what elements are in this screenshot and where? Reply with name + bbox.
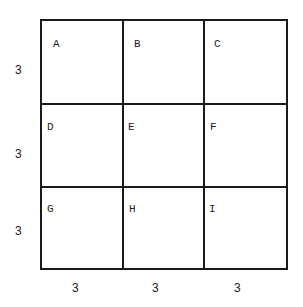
row-dimension-1: 3 <box>15 64 22 76</box>
cell-label-f: F <box>210 122 217 133</box>
row-dimension-2: 3 <box>15 148 22 160</box>
cell-label-h: H <box>129 204 136 215</box>
column-dimension-3: 3 <box>234 282 241 294</box>
grid-divider-horizontal-1 <box>42 103 286 105</box>
grid-divider-vertical-1 <box>122 21 124 268</box>
cell-label-g: G <box>47 204 54 215</box>
cell-label-e: E <box>128 122 135 133</box>
cell-label-a: A <box>53 39 60 50</box>
cell-label-i: I <box>209 204 216 215</box>
cell-label-d: D <box>47 122 54 133</box>
cell-label-b: B <box>134 39 141 50</box>
grid-divider-vertical-2 <box>203 21 205 268</box>
grid-3x3: A B C D E F G H I <box>40 19 288 270</box>
cell-label-c: C <box>214 39 221 50</box>
column-dimension-2: 3 <box>152 282 159 294</box>
column-dimension-1: 3 <box>72 282 79 294</box>
row-dimension-3: 3 <box>15 225 22 237</box>
grid-divider-horizontal-2 <box>42 186 286 188</box>
